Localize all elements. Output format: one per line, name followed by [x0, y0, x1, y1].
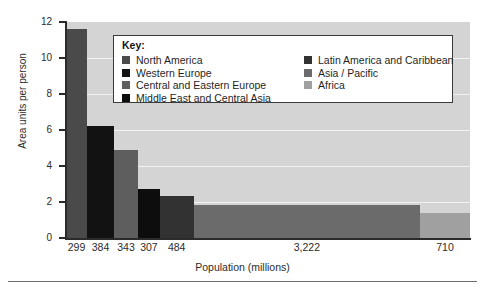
legend-item-label: Western Europe [136, 67, 212, 79]
y-tick-label: 8 [30, 89, 52, 99]
x-tick-label: 343 [114, 242, 138, 253]
bar [420, 213, 470, 238]
x-axis-title: Population (millions) [0, 262, 485, 273]
y-tick-label: 0 [30, 233, 52, 243]
legend-swatch-icon [304, 81, 312, 89]
legend-item: Western Europe [122, 67, 307, 80]
bar [66, 29, 87, 238]
x-tick-label: 307 [138, 242, 160, 253]
x-tick-label: 3,222 [194, 242, 420, 253]
chart-figure: 024681012 Area units per person 29938434… [0, 0, 485, 289]
legend-item: Middle East and Central Asia [122, 92, 307, 105]
bar [87, 126, 114, 239]
y-tick-mark [59, 93, 66, 95]
legend-swatch-icon [122, 56, 130, 64]
legend-item-label: Middle East and Central Asia [136, 92, 271, 104]
legend-item-label: Africa [318, 79, 345, 91]
legend-item-label: Central and Eastern Europe [136, 79, 266, 91]
y-tick-mark [59, 165, 66, 167]
gridline [66, 130, 470, 131]
y-tick-mark [59, 21, 66, 23]
y-tick-mark [59, 237, 66, 239]
legend-swatch-icon [304, 56, 312, 64]
x-tick-label: 384 [87, 242, 114, 253]
y-tick-mark [59, 57, 66, 59]
y-tick-label: 4 [30, 161, 52, 171]
y-tick-mark [59, 201, 66, 203]
legend-column-left: North AmericaWestern EuropeCentral and E… [122, 54, 307, 104]
legend-column-right: Latin America and CaribbeanAsia / Pacifi… [304, 54, 454, 92]
bar [114, 150, 138, 238]
x-tick-label: 484 [160, 242, 194, 253]
footer-divider [8, 281, 477, 282]
legend-item-label: North America [136, 54, 203, 66]
legend-item: Central and Eastern Europe [122, 79, 307, 92]
legend-item-label: Asia / Pacific [318, 67, 378, 79]
y-tick-label: 12 [30, 17, 52, 27]
bar [138, 189, 160, 238]
legend-swatch-icon [122, 69, 130, 77]
legend-title: Key: [122, 40, 145, 51]
bar [194, 205, 420, 238]
y-tick-label: 6 [30, 125, 52, 135]
legend-item: North America [122, 54, 307, 67]
legend: Key: North AmericaWestern EuropeCentral … [113, 35, 453, 103]
legend-swatch-icon [304, 69, 312, 77]
legend-item: Africa [304, 79, 454, 92]
y-tick-label: 2 [30, 197, 52, 207]
legend-item: Asia / Pacific [304, 67, 454, 80]
y-tick-label: 10 [30, 53, 52, 63]
legend-item-label: Latin America and Caribbean [318, 54, 453, 66]
y-tick-mark [59, 129, 66, 131]
legend-swatch-icon [122, 81, 130, 89]
bar [160, 196, 194, 238]
legend-item: Latin America and Caribbean [304, 54, 454, 67]
x-tick-label: 710 [420, 242, 470, 253]
x-tick-label: 299 [66, 242, 87, 253]
legend-swatch-icon [122, 94, 130, 102]
x-axis-line [65, 238, 471, 240]
y-axis-title: Area units per person [18, 31, 28, 171]
